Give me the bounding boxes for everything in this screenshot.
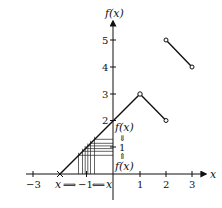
y-tick-label-2: 2 <box>102 115 108 126</box>
approach-x-right: x <box>106 178 113 191</box>
approach-x-left: x <box>55 178 62 191</box>
x-tick-label--3: −3 <box>26 179 41 190</box>
x-tick-label-2: 2 <box>163 179 169 190</box>
arrow-left-icon: ⟸ <box>92 180 105 190</box>
y-tick-label-4: 4 <box>102 62 108 73</box>
x-tick-label--1: −1 <box>78 179 93 190</box>
arrow-right-icon: ⟹ <box>63 180 76 190</box>
approach-horizontal-lines <box>79 139 114 155</box>
segment-3 <box>166 40 192 67</box>
y-axis-label: f(x) <box>104 7 124 20</box>
y-tick-label-5: 5 <box>102 35 108 46</box>
x-tick-label-3: 3 <box>189 179 195 190</box>
function-graph: −3 1 2 3 2 3 4 5 f(x) x x ⟹ −1 ⟸ x f(x) … <box>0 0 222 208</box>
fx-lower-label: f(x) <box>114 160 134 173</box>
graph-svg: −3 1 2 3 2 3 4 5 f(x) x x ⟹ −1 ⟸ x f(x) … <box>0 0 222 208</box>
open-circle-2-2 <box>164 119 168 123</box>
y-tick-label-1: 1 <box>119 142 125 153</box>
fx-upper-label: f(x) <box>114 121 134 134</box>
x-tick-label-1: 1 <box>137 179 143 190</box>
y-tick-label-3: 3 <box>102 89 108 100</box>
open-circle-2-5 <box>164 38 168 42</box>
circle-3-4 <box>190 65 194 69</box>
segment-2 <box>140 94 166 121</box>
open-circle-1-3 <box>138 92 142 96</box>
x-axis-label: x <box>210 168 217 181</box>
function-curve <box>60 40 192 174</box>
